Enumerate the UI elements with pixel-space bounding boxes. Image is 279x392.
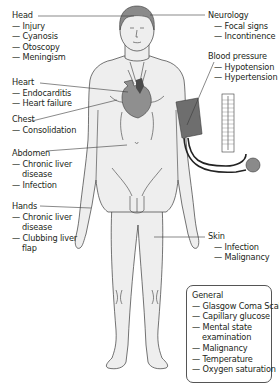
label-abdomen: Abdomen — Chronic liver disease — Infect… — [12, 148, 72, 190]
label-item: — Oxygen saturation — [192, 364, 279, 375]
label-item: — Chronic liver — [12, 159, 72, 170]
label-heart-title: Heart — [12, 77, 72, 88]
label-general: General — Glasgow Coma Scale — Capillary… — [192, 290, 279, 375]
label-item: — Injury — [12, 21, 66, 32]
label-item: examination — [192, 332, 279, 343]
label-skin-title: Skin — [208, 231, 270, 242]
label-item: — Infection — [12, 180, 72, 191]
label-head: Head — Injury — Cyanosis — Otoscopy — Me… — [12, 10, 66, 63]
label-hands-title: Hands — [12, 201, 77, 212]
label-neurology: Neurology — Focal signs — Incontinence — [208, 10, 275, 42]
label-item: — Heart failure — [12, 98, 72, 109]
label-item: — Glasgow Coma Scale — [192, 301, 279, 312]
bp-bulb — [246, 158, 260, 172]
label-general-title: General — [192, 290, 279, 301]
label-item: — Capillary glucose — [192, 311, 279, 322]
label-item: — Cyanosis — [12, 31, 66, 42]
label-item: flap — [12, 243, 77, 254]
label-head-title: Head — [12, 10, 66, 21]
label-chest-title: Chest — [12, 114, 76, 125]
label-item: — Clubbing liver — [12, 233, 77, 244]
label-item: — Meningism — [12, 52, 66, 63]
label-item: — Malignancy — [192, 343, 279, 354]
label-chest: Chest — Consolidation — [12, 114, 76, 135]
label-item: disease — [12, 169, 72, 180]
label-abdomen-title: Abdomen — [12, 148, 72, 159]
label-neurology-title: Neurology — [208, 10, 275, 21]
label-item: — Malignancy — [208, 252, 270, 263]
label-item: — Infection — [208, 242, 270, 253]
label-item: — Endocarditis — [12, 88, 72, 99]
label-skin: Skin — Infection — Malignancy — [208, 231, 270, 263]
label-item: — Chronic liver — [12, 212, 77, 223]
label-item: — Hypotension — [208, 62, 277, 73]
label-blood-pressure: Blood pressure — Hypotension — Hypertens… — [208, 51, 277, 83]
bp-tubing — [184, 138, 246, 172]
label-hands: Hands — Chronic liver disease — Clubbing… — [12, 201, 77, 254]
legs — [106, 205, 167, 369]
manometer — [222, 94, 234, 152]
label-item: — Mental state — [192, 322, 279, 333]
label-heart: Heart — Endocarditis — Heart failure — [12, 77, 72, 109]
label-item: — Consolidation — [12, 125, 76, 136]
label-item: disease — [12, 222, 77, 233]
label-item: — Otoscopy — [12, 42, 66, 53]
label-item: — Temperature — [192, 354, 279, 365]
label-item: — Incontinence — [208, 31, 275, 42]
label-blood-pressure-title: Blood pressure — [208, 51, 277, 62]
label-item: — Hypertension — [208, 72, 277, 83]
label-item: — Focal signs — [208, 21, 275, 32]
